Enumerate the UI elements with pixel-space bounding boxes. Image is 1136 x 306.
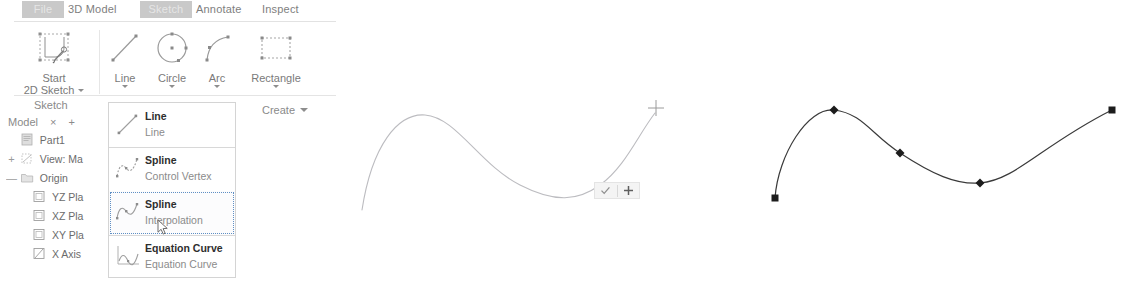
add-icon[interactable]: + xyxy=(69,116,75,128)
menu-item-title: Line xyxy=(145,103,235,123)
plus-icon xyxy=(623,185,634,196)
panel-label-create[interactable]: Create xyxy=(262,104,308,116)
circle-tool-caption: Circle xyxy=(148,72,196,84)
tree-row-label: Origin xyxy=(40,169,68,188)
line-tool-flyout-menu: Line Line Spline Control Vertex Spline I xyxy=(108,102,236,278)
tab-sketch[interactable]: Sketch xyxy=(140,1,192,18)
ribbon-panel-separator xyxy=(99,30,100,94)
plane-icon xyxy=(32,209,47,222)
tree-row-label: XZ Pla xyxy=(52,207,84,226)
tree-row-label: View: Ma xyxy=(40,150,83,169)
menu-item-subtitle: Equation Curve xyxy=(145,255,235,271)
tree-row[interactable]: XY Pla xyxy=(6,226,118,245)
part-document-icon xyxy=(20,133,35,146)
rectangle-tool-button[interactable]: Rectangle xyxy=(240,28,312,88)
menu-item-subtitle: Control Vertex xyxy=(145,167,235,183)
accept-spline-button[interactable] xyxy=(595,183,617,198)
browser-title: Model xyxy=(8,116,38,128)
panel-chevron-down-icon[interactable] xyxy=(300,108,308,112)
line-tool-button[interactable]: Line xyxy=(103,28,147,88)
start-2d-sketch-button[interactable]: Start 2D Sketch xyxy=(16,28,92,96)
chevron-down-icon[interactable] xyxy=(78,89,84,92)
tree-row-label: XY Pla xyxy=(52,226,84,245)
equation-curve-icon xyxy=(114,242,142,270)
add-point-button[interactable] xyxy=(618,183,640,198)
sketch-canvas-finished-spline[interactable] xyxy=(760,85,1136,225)
rectangle-icon xyxy=(240,28,312,70)
sketch-pencil-icon xyxy=(16,28,92,70)
tree-expander[interactable]: — xyxy=(6,169,17,188)
spline-endpoint xyxy=(772,195,779,202)
menu-item-subtitle: Interpolation xyxy=(145,211,235,227)
rectangle-tool-chevron-down-icon[interactable] xyxy=(273,85,279,88)
menu-item-spline-interpolation[interactable]: Spline Interpolation xyxy=(109,191,235,235)
menu-item-spline-control-vertex[interactable]: Spline Control Vertex xyxy=(109,147,235,191)
tab-file[interactable]: File xyxy=(22,1,64,18)
ribbon-divider xyxy=(14,21,336,22)
spline-endpoint xyxy=(1109,107,1116,114)
browser-bar: Model × + xyxy=(8,116,84,128)
line-icon xyxy=(103,28,147,70)
spline-fit-point xyxy=(830,106,985,188)
model-browser-tree: Part1 + View: Ma — Origin YZ Pla xyxy=(6,131,118,264)
ribbon-panel-rule xyxy=(14,95,336,96)
sketch-canvas-in-progress-spline[interactable] xyxy=(350,85,710,225)
close-icon[interactable]: × xyxy=(50,116,56,128)
arc-tool-chevron-down-icon[interactable] xyxy=(214,85,220,88)
start-2d-sketch-caption-line1: Start xyxy=(16,72,92,84)
origin-folder-icon xyxy=(20,171,35,184)
circle-tool-chevron-down-icon[interactable] xyxy=(169,85,175,88)
arc-icon xyxy=(197,28,237,70)
circle-icon xyxy=(148,28,196,70)
tree-row[interactable]: + View: Ma xyxy=(6,150,118,169)
rectangle-tool-caption: Rectangle xyxy=(240,72,312,84)
spline-mini-toolbar[interactable] xyxy=(594,182,640,199)
menu-item-line[interactable]: Line Line xyxy=(109,103,235,147)
tree-row-label: Part1 xyxy=(40,131,65,150)
tree-row[interactable]: X Axis xyxy=(6,245,118,264)
line-tool-caption: Line xyxy=(103,72,147,84)
menu-item-title: Spline xyxy=(145,191,235,211)
line-tool-chevron-down-icon[interactable] xyxy=(122,85,128,88)
axis-icon xyxy=(32,247,47,260)
menu-item-subtitle: Line xyxy=(145,123,235,139)
view-icon xyxy=(20,152,35,165)
tree-row-label: X Axis xyxy=(52,245,81,264)
spline-interp-icon xyxy=(114,198,142,226)
line-sketch-icon xyxy=(114,110,142,138)
tree-row[interactable]: Part1 xyxy=(6,131,118,150)
ribbon-tab-strip: File 3D Model Sketch Annotate Inspect xyxy=(0,0,336,20)
menu-item-title: Equation Curve xyxy=(145,235,235,255)
spline-cv-icon xyxy=(114,154,142,182)
arc-tool-button[interactable]: Arc xyxy=(197,28,237,88)
tree-expander[interactable]: + xyxy=(6,150,17,169)
tab-annotate[interactable]: Annotate xyxy=(192,1,246,18)
tree-row[interactable]: — Origin xyxy=(6,169,118,188)
menu-item-equation-curve[interactable]: Equation Curve Equation Curve xyxy=(109,235,235,279)
plane-icon xyxy=(32,228,47,241)
tab-inspect[interactable]: Inspect xyxy=(258,1,303,18)
panel-label-sketch: Sketch xyxy=(34,99,68,111)
menu-item-title: Spline xyxy=(145,147,235,167)
tree-row[interactable]: YZ Pla xyxy=(6,188,118,207)
circle-tool-button[interactable]: Circle xyxy=(148,28,196,88)
tree-row-label: YZ Pla xyxy=(52,188,84,207)
tab-3d-model[interactable]: 3D Model xyxy=(64,1,121,18)
plane-icon xyxy=(32,190,47,203)
check-icon xyxy=(600,185,611,196)
tree-row[interactable]: XZ Pla xyxy=(6,207,118,226)
arc-tool-caption: Arc xyxy=(197,72,237,84)
